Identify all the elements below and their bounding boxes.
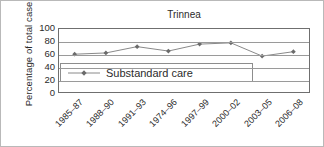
legend: Substandard care bbox=[60, 63, 253, 82]
data-series-substandard-care bbox=[59, 29, 309, 92]
chart-figure: Percentage of total cases Trinnea 100806… bbox=[0, 0, 324, 147]
y-axis-tick-label: 20 bbox=[33, 75, 55, 85]
legend-swatch-line-marker bbox=[67, 68, 101, 78]
gridline bbox=[59, 55, 309, 56]
data-point-marker bbox=[166, 49, 171, 54]
y-axis-tick-label: 40 bbox=[33, 62, 55, 72]
gridline bbox=[59, 68, 309, 69]
data-point-marker bbox=[291, 49, 296, 54]
y-axis-tick-label: 80 bbox=[33, 36, 55, 46]
plot-area: Substandard care bbox=[58, 28, 310, 93]
y-axis-tick-labels: 100806040200 bbox=[29, 28, 55, 93]
y-axis-tick-label: 100 bbox=[33, 23, 55, 33]
data-point-marker bbox=[135, 44, 140, 49]
gridline bbox=[59, 42, 309, 43]
gridline bbox=[59, 81, 309, 82]
x-axis-tick-labels: 1985–871988–901991–931974–961997–992000–… bbox=[58, 93, 310, 147]
y-axis-tick-label: 0 bbox=[33, 88, 55, 98]
y-axis-tick-label: 60 bbox=[33, 49, 55, 59]
chart-title: Trinnea bbox=[58, 9, 310, 20]
